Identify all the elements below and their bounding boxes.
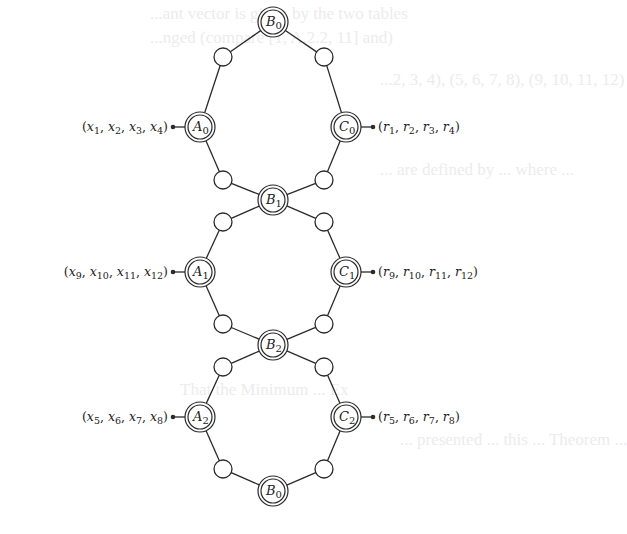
input-tuple-A0: (x1, x2, x3, x4)	[82, 119, 185, 136]
io-dot	[371, 415, 376, 420]
edge-line	[287, 327, 316, 339]
node-C2: C2	[331, 402, 361, 432]
io-dot	[371, 270, 376, 275]
relay-node	[315, 460, 333, 478]
node-B0: B0	[258, 476, 288, 506]
relay-node	[315, 48, 333, 66]
edge-line	[206, 230, 219, 258]
output-tuple-C2: (r5, r6, r7, r8)	[361, 409, 460, 426]
edge-line	[287, 473, 316, 485]
relay-node	[315, 213, 333, 231]
relay-node-group	[214, 48, 333, 478]
tuple-label: (r1, r2, r3, r4)	[378, 119, 460, 136]
io-dot	[171, 270, 176, 275]
relay-node	[214, 358, 232, 376]
relay-node	[315, 315, 333, 333]
io-label-group: (x1, x2, x3, x4)(r1, r2, r3, r4)(x9, x10…	[64, 119, 478, 426]
edge-line	[231, 351, 259, 363]
relay-node	[315, 358, 333, 376]
edge-line	[327, 141, 340, 172]
node-C0: C0	[331, 112, 361, 142]
edge-line	[206, 375, 219, 403]
edge-line	[328, 375, 340, 403]
edge-line	[285, 30, 316, 51]
edge-line	[231, 206, 259, 218]
edge-line	[206, 431, 219, 461]
relay-node	[214, 213, 232, 231]
relay-node	[214, 460, 232, 478]
node-B2: B2	[258, 330, 288, 360]
edge-line	[231, 327, 259, 339]
edge-line	[328, 286, 341, 316]
edge-line	[205, 66, 221, 113]
edge-group	[205, 30, 342, 485]
edge-line	[287, 183, 316, 194]
tuple-label: (x5, x6, x7, x8)	[82, 409, 168, 426]
tuple-label: (r9, r10, r11, r12)	[378, 264, 478, 281]
node-A2: A2	[185, 402, 215, 432]
relay-node	[315, 171, 333, 189]
edge-line	[230, 31, 260, 52]
tuple-label: (x1, x2, x3, x4)	[82, 119, 168, 136]
edge-line	[231, 473, 259, 485]
io-dot	[171, 415, 176, 420]
tuple-label: (x9, x10, x11, x12)	[64, 264, 168, 281]
node-C1: C1	[331, 257, 361, 287]
edge-line	[231, 183, 259, 194]
node-A0: A0	[185, 112, 215, 142]
node-B0: B0	[258, 7, 288, 37]
tuple-label: (r5, r6, r7, r8)	[378, 409, 460, 426]
edge-line	[328, 431, 341, 461]
edge-line	[287, 206, 316, 218]
relay-node	[214, 171, 232, 189]
output-tuple-C1: (r9, r10, r11, r12)	[361, 264, 478, 281]
io-dot	[371, 125, 376, 130]
output-tuple-C0: (r1, r2, r3, r4)	[361, 119, 460, 136]
edge-line	[328, 230, 340, 258]
relay-node	[214, 315, 232, 333]
relay-node	[214, 48, 232, 66]
io-dot	[171, 125, 176, 130]
node-A1: A1	[185, 257, 215, 287]
input-tuple-A2: (x5, x6, x7, x8)	[82, 409, 185, 426]
edge-line	[206, 286, 219, 316]
edge-line	[287, 351, 316, 363]
edge-line	[327, 66, 342, 113]
node-B1: B1	[258, 185, 288, 215]
input-tuple-A1: (x9, x10, x11, x12)	[64, 264, 185, 281]
edge-line	[206, 141, 219, 172]
named-node-group: B0A0C0B1A1C1B2A2C2B0	[185, 7, 361, 506]
